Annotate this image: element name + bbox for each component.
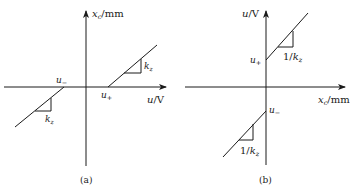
panel-b-lower-slope-label: 1/kz: [240, 145, 260, 158]
panel-b-u-plus-label: u+: [250, 55, 261, 67]
panel-a-u-plus-label: u+: [101, 90, 112, 102]
panel-a-upper-slope-label: kz: [144, 61, 153, 72]
panel-a-x-axis-label: u/V: [147, 94, 165, 105]
panel-a-u-minus-label: u−: [56, 75, 67, 87]
panel-a-caption: (a): [80, 175, 92, 185]
panel-a-y-axis-label: xc/mm: [92, 8, 124, 21]
panel-a: xc/mm u/V u+ u− kz kz (a): [4, 8, 166, 185]
panel-b-y-axis-label: u/V: [242, 8, 260, 19]
diagram-canvas: xc/mm u/V u+ u− kz kz (a): [0, 0, 356, 191]
panel-a-lower-line: [15, 87, 64, 127]
panel-b-u-minus-label: u−: [269, 105, 280, 117]
panel-b-caption: (b): [259, 175, 272, 185]
panel-a-lower-slope-label: kz: [45, 114, 54, 125]
panel-b: u/V xc/mm u+ u− 1/kz 1/kz (b): [185, 8, 350, 185]
panel-b-x-axis-label: xc/mm: [318, 94, 350, 107]
panel-b-upper-slope-label: 1/kz: [283, 51, 303, 64]
diagram-svg: xc/mm u/V u+ u− kz kz (a): [0, 0, 356, 191]
